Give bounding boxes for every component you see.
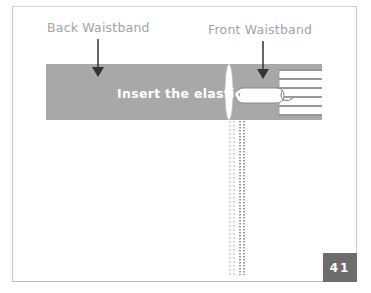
front-waistband-label: Front Waistband bbox=[208, 22, 312, 37]
waistband-diagram bbox=[0, 0, 371, 293]
page-number: 41 bbox=[330, 261, 351, 275]
zipper-icon bbox=[230, 121, 244, 275]
page-number-badge: 41 bbox=[323, 253, 357, 282]
casing-lines bbox=[279, 69, 322, 116]
instruction-text: Insert the elastic bbox=[117, 86, 242, 101]
back-waistband-label: Back Waistband bbox=[47, 20, 150, 35]
